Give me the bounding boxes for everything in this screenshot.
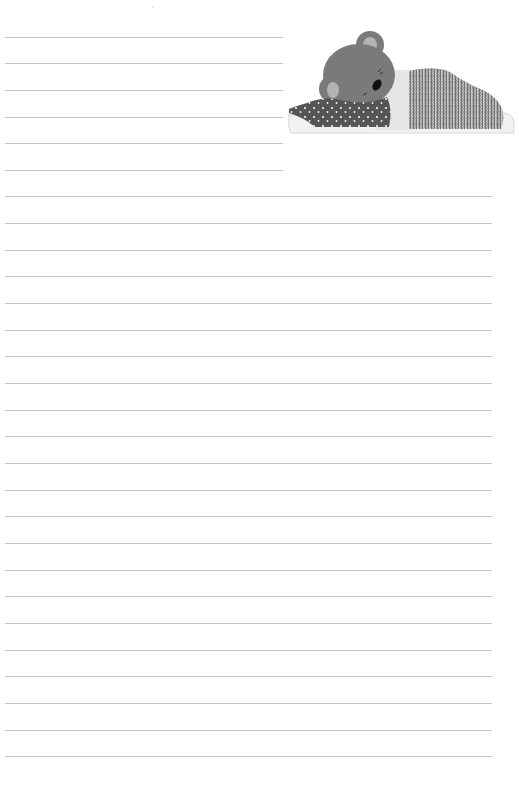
writing-line-short	[5, 63, 283, 64]
writing-line	[5, 596, 492, 597]
writing-line	[5, 676, 492, 677]
writing-line	[5, 383, 492, 384]
writing-line	[5, 543, 492, 544]
writing-line	[5, 703, 492, 704]
blanket-shape	[409, 68, 503, 129]
writing-line-short	[5, 37, 283, 38]
writing-line	[5, 650, 492, 651]
writing-line	[5, 276, 492, 277]
writing-line	[5, 330, 492, 331]
lined-paper-page	[0, 0, 519, 795]
writing-line	[5, 250, 492, 251]
writing-line	[5, 463, 492, 464]
writing-line-short	[5, 170, 283, 171]
writing-line	[5, 756, 492, 757]
writing-line	[5, 303, 492, 304]
writing-line	[5, 356, 492, 357]
writing-line	[5, 223, 492, 224]
writing-line	[5, 623, 492, 624]
sleeping-bear-illustration	[285, 25, 519, 140]
writing-line-short	[5, 90, 283, 91]
speck	[152, 6, 154, 8]
writing-line	[5, 490, 492, 491]
writing-line	[5, 436, 492, 437]
writing-line	[5, 516, 492, 517]
writing-line-short	[5, 143, 283, 144]
writing-line-short	[5, 117, 283, 118]
writing-line	[5, 570, 492, 571]
writing-line	[5, 196, 492, 197]
writing-line	[5, 410, 492, 411]
writing-line	[5, 730, 492, 731]
